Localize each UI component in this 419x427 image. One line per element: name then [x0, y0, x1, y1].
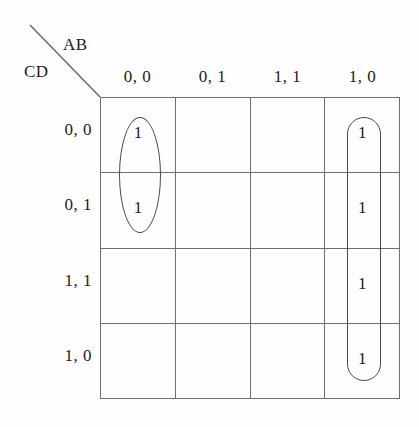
- row-header-1: 0, 1: [30, 173, 92, 249]
- kmap-cell-r1c1: [176, 173, 251, 248]
- cell-value: 1: [325, 275, 399, 292]
- cell-value: 1: [325, 350, 399, 367]
- row-header-0: 0, 0: [30, 97, 92, 173]
- column-header-3: 1, 0: [325, 63, 400, 91]
- kmap-cell-r0c0: 1: [101, 98, 176, 173]
- kmap-cell-r1c3: 1: [325, 173, 400, 248]
- cell-value: 1: [101, 124, 175, 141]
- column-header-0: 0, 0: [100, 63, 175, 91]
- kmap-cell-r0c2: [251, 98, 326, 173]
- row-axis-label: CD: [24, 63, 48, 80]
- kmap-cell-r2c3: 1: [325, 249, 400, 324]
- row-header-2: 1, 1: [30, 248, 92, 324]
- column-header-row: 0, 0 0, 1 1, 1 1, 0: [100, 63, 400, 91]
- kmap-cell-r3c0: [101, 324, 176, 399]
- cell-value: 1: [101, 199, 175, 216]
- kmap-cell-r2c2: [251, 249, 326, 324]
- kmap-cell-r0c3: 1: [325, 98, 400, 173]
- kmap-cell-r1c2: [251, 173, 326, 248]
- kmap-cell-r1c0: 1: [101, 173, 176, 248]
- kmap-cell-r0c1: [176, 98, 251, 173]
- column-axis-label: AB: [63, 36, 87, 53]
- kmap-cell-grid: 1 1 1 1 1 1: [100, 97, 400, 399]
- row-header-column: 0, 0 0, 1 1, 1 1, 0: [30, 97, 92, 399]
- row-header-3: 1, 0: [30, 324, 92, 400]
- karnaugh-map-diagram: AB CD 0, 0 0, 1 1, 1 1, 0 0, 0 0, 1 1, 1…: [0, 0, 419, 427]
- kmap-cell-r2c1: [176, 249, 251, 324]
- kmap-cell-r3c3: 1: [325, 324, 400, 399]
- column-header-1: 0, 1: [175, 63, 250, 91]
- column-header-2: 1, 1: [250, 63, 325, 91]
- cell-value: 1: [325, 124, 399, 141]
- kmap-cell-r3c2: [251, 324, 326, 399]
- axis-corner-header: AB CD: [0, 0, 110, 100]
- axis-diagonal-line-icon: [0, 0, 110, 100]
- cell-value: 1: [325, 199, 399, 216]
- kmap-cell-r3c1: [176, 324, 251, 399]
- kmap-cell-r2c0: [101, 249, 176, 324]
